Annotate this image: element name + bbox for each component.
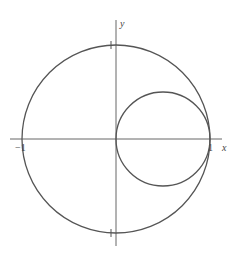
y-axis-label: y: [119, 18, 125, 29]
diagram-canvas: y x 1 −1 1 −1: [0, 0, 243, 255]
x-axis-label: x: [221, 142, 227, 153]
x-tick-label-pos: 1: [208, 142, 213, 153]
x-tick-label-neg: −1: [15, 142, 26, 153]
